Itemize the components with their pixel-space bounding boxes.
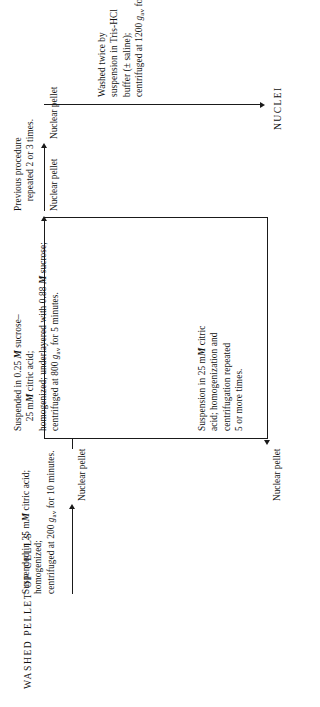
node-nuclear-pellet-3: Nuclear pellet <box>49 87 59 139</box>
node-nuclear-pellet-4: Nuclear pellet <box>272 449 282 501</box>
flowchart-canvas: WASHED PELLET OF CELLS Suspended in 25 m… <box>0 0 320 707</box>
node-nuclear-pellet-1: Nuclear pellet <box>77 449 87 501</box>
loop-box-right-edge <box>44 217 268 218</box>
step-1-label: Suspended in 25 mM citric acid;homogeniz… <box>20 404 59 594</box>
step-3-label: Previous procedure repeated 2 or 3 times… <box>12 31 37 211</box>
step-4-label: Washed twice bysuspension in Tris-HClbuf… <box>96 0 147 97</box>
step-2-label: Suspended in 0.25 M sucrose– 25 mM citri… <box>12 191 63 431</box>
node-nuclei: NUCLEI <box>272 86 283 130</box>
connector-pellet3-to-nuclei <box>44 104 262 105</box>
connector-pellet1-stub <box>72 438 73 449</box>
connector-title-to-pellet1 <box>72 508 73 594</box>
arrowhead-pellet2-to-pellet3 <box>41 143 47 148</box>
step-5-label: Suspension in 25 mM citricacid; homogeni… <box>196 221 245 431</box>
connector-pellet2-to-pellet3 <box>44 147 45 211</box>
loop-box-left-edge <box>44 438 268 439</box>
arrowhead-loop-return <box>264 440 270 445</box>
node-nuclear-pellet-2: Nuclear pellet <box>49 159 59 211</box>
rotated-diagram-wrapper: WASHED PELLET OF CELLS Suspended in 25 m… <box>0 0 320 707</box>
arrowhead-pellet3-to-nuclei <box>260 102 265 108</box>
arrowhead-title-to-pellet1 <box>69 504 75 509</box>
arrowhead-step2-to-pellet2 <box>41 216 47 221</box>
loop-box-bottom-edge <box>267 217 268 439</box>
